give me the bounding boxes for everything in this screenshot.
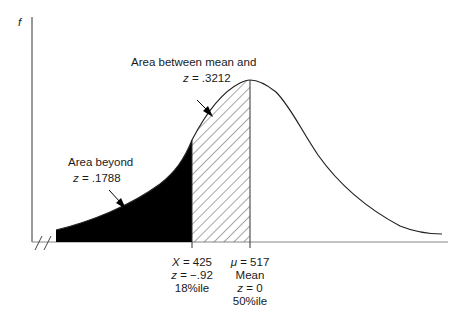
arrow-icon-beyond — [109, 190, 126, 209]
y-axis-label: f — [18, 16, 23, 28]
mean-marker-labels: μ = 517 Mean z = 0 50%ile — [230, 256, 270, 307]
svg-text:50%ile: 50%ile — [233, 295, 268, 307]
normal-curve-diagram: f Area between mean and z = .3212 Area b… — [0, 0, 468, 316]
svg-text:z = −.92: z = −.92 — [170, 269, 213, 281]
annotation-beyond-line1: Area beyond — [68, 156, 133, 168]
svg-text:X = 425: X = 425 — [171, 256, 212, 268]
axis-break-icon — [35, 236, 51, 250]
arrow-icon-between — [197, 100, 213, 117]
x-marker-labels: X = 425 z = −.92 18%ile — [170, 256, 213, 294]
svg-text:Mean: Mean — [236, 269, 265, 281]
annotation-between-line1: Area between mean and — [131, 56, 256, 68]
svg-text:18%ile: 18%ile — [175, 282, 210, 294]
annotation-between-line2: z = .3212 — [182, 72, 231, 84]
annotation-beyond-line2: z = .1788 — [72, 172, 121, 184]
svg-text:μ = 517: μ = 517 — [230, 256, 270, 268]
svg-text:z = 0: z = 0 — [236, 282, 262, 294]
